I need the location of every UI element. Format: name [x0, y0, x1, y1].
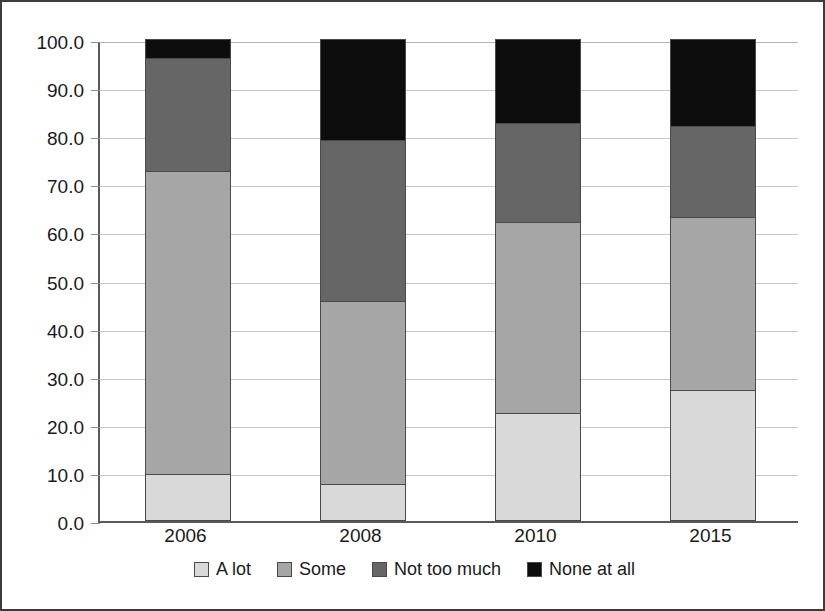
legend-item[interactable]: Not too much — [372, 560, 501, 578]
stacked-bar[interactable] — [320, 42, 406, 521]
stacked-bar[interactable] — [145, 42, 231, 521]
legend-swatch-not-too-much — [372, 562, 387, 577]
bar-segment-none-at-all[interactable] — [495, 39, 581, 124]
y-axis-tick-label: 50.0 — [47, 273, 84, 292]
legend-item-label: Not too much — [394, 560, 501, 578]
y-axis-tick — [91, 42, 100, 43]
legend-item-label: None at all — [549, 560, 635, 578]
x-axis-tick-label: 2006 — [164, 526, 206, 547]
y-axis-tick — [91, 379, 100, 380]
y-axis-tick-label: 10.0 — [47, 465, 84, 484]
x-axis-labels: 2006200820102015 — [98, 526, 798, 554]
y-axis-tick — [91, 475, 100, 476]
bar-segment-some[interactable] — [145, 171, 231, 476]
y-axis-tick — [91, 331, 100, 332]
bar-group — [670, 42, 756, 521]
y-axis-labels: 0.010.020.030.040.050.060.070.080.090.01… — [2, 42, 84, 523]
legend-swatch-some — [277, 562, 292, 577]
y-axis-tick-label: 30.0 — [47, 369, 84, 388]
legend-item[interactable]: A lot — [194, 560, 251, 578]
bar-segment-a-lot[interactable] — [670, 390, 756, 521]
y-axis-tick — [91, 186, 100, 187]
y-axis-tick-label: 70.0 — [47, 177, 84, 196]
y-axis-tick-label: 60.0 — [47, 225, 84, 244]
bar-segment-some[interactable] — [320, 301, 406, 485]
bar-segment-none-at-all[interactable] — [145, 39, 231, 59]
y-axis-tick-label: 80.0 — [47, 129, 84, 148]
bar-segment-none-at-all[interactable] — [670, 39, 756, 127]
x-axis-tick-label: 2008 — [339, 526, 381, 547]
y-axis-tick-label: 20.0 — [47, 417, 84, 436]
y-axis-tick — [91, 90, 100, 91]
y-axis-tick — [91, 523, 100, 524]
bar-segment-not-too-much[interactable] — [145, 58, 231, 172]
x-axis-tick-label: 2015 — [689, 526, 731, 547]
legend-item-label: A lot — [216, 560, 251, 578]
y-axis-tick — [91, 234, 100, 235]
chart-figure: 0.010.020.030.040.050.060.070.080.090.01… — [0, 0, 825, 611]
y-axis-tick-label: 100.0 — [36, 33, 84, 52]
bar-segment-none-at-all[interactable] — [320, 39, 406, 141]
bar-segment-some[interactable] — [670, 217, 756, 391]
stacked-bar[interactable] — [670, 42, 756, 521]
legend-item-label: Some — [299, 560, 346, 578]
y-axis-tick — [91, 138, 100, 139]
bar-segment-not-too-much[interactable] — [495, 123, 581, 223]
bar-group — [320, 42, 406, 521]
bar-segment-not-too-much[interactable] — [320, 140, 406, 302]
chart-legend: A lotSomeNot too muchNone at all — [2, 560, 825, 578]
bar-group — [145, 42, 231, 521]
bar-segment-a-lot[interactable] — [145, 474, 231, 521]
y-axis-tick — [91, 283, 100, 284]
y-axis-tick — [91, 427, 100, 428]
y-axis-tick-label: 0.0 — [58, 514, 84, 533]
y-axis-tick-label: 90.0 — [47, 81, 84, 100]
bar-segment-some[interactable] — [495, 222, 581, 414]
legend-swatch-none-at-all — [527, 562, 542, 577]
stacked-bar[interactable] — [495, 42, 581, 521]
bar-segment-not-too-much[interactable] — [670, 126, 756, 218]
y-axis-tick-label: 40.0 — [47, 321, 84, 340]
legend-item[interactable]: Some — [277, 560, 346, 578]
plot-area — [98, 42, 798, 523]
bar-group — [495, 42, 581, 521]
legend-swatch-a-lot — [194, 562, 209, 577]
legend-item[interactable]: None at all — [527, 560, 635, 578]
bar-segment-a-lot[interactable] — [495, 413, 581, 521]
bar-segment-a-lot[interactable] — [320, 484, 406, 521]
x-axis-tick-label: 2010 — [514, 526, 556, 547]
